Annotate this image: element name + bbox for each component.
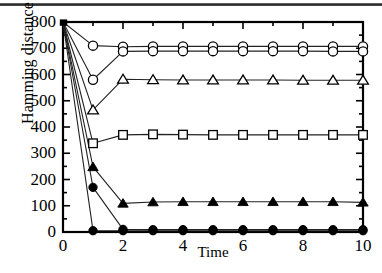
marker-square-open — [269, 131, 278, 140]
x-axis-label: Time — [197, 244, 228, 261]
marker-square-open — [329, 131, 338, 140]
x-tick-label: 6 — [239, 236, 248, 256]
marker-circle-open — [208, 47, 217, 56]
x-tick-label: 10 — [355, 236, 372, 256]
marker-circle-open — [118, 47, 127, 56]
marker-square-open — [179, 130, 188, 139]
x-tick-label: 0 — [59, 236, 68, 256]
y-tick-label: 200 — [0, 170, 56, 190]
marker-circle-open — [178, 47, 187, 56]
marker-triangle-open — [118, 74, 129, 83]
marker-circle-filled — [239, 226, 247, 234]
marker-circle-open — [328, 47, 337, 56]
marker-square-open — [149, 130, 158, 139]
plot-area — [0, 0, 382, 273]
y-tick-label: 800 — [0, 12, 56, 32]
marker-circle-open — [358, 47, 367, 56]
marker-circle-open — [268, 47, 277, 56]
x-tick-label: 4 — [179, 236, 188, 256]
marker-circle-filled — [89, 226, 97, 234]
marker-circle-filled — [179, 226, 187, 234]
marker-circle-open — [148, 47, 157, 56]
x-tick-label: 8 — [299, 236, 308, 256]
marker-circle-open — [238, 47, 247, 56]
marker-square-open — [89, 139, 98, 148]
y-tick-label: 600 — [0, 65, 56, 85]
y-tick-label: 300 — [0, 143, 56, 163]
marker-circle-filled — [209, 226, 217, 234]
marker-square-open — [239, 131, 248, 140]
marker-circle-filled — [149, 226, 157, 234]
marker-square-open — [359, 131, 368, 140]
y-tick-label: 400 — [0, 117, 56, 137]
marker-circle-open — [298, 47, 307, 56]
marker-circle-filled — [89, 183, 97, 191]
marker-circle-open — [88, 41, 97, 50]
marker-circle-filled — [359, 226, 367, 234]
scan-artifact-line — [0, 3, 382, 6]
x-tick-label: 2 — [119, 236, 128, 256]
y-tick-label: 0 — [0, 222, 56, 242]
marker-circle-open — [88, 75, 97, 84]
marker-square-open — [299, 131, 308, 140]
origin-marker-cluster — [60, 19, 67, 25]
marker-square-open — [119, 131, 128, 140]
marker-circle-filled — [329, 226, 337, 234]
figure-container: Hamming distance 01002003004005006007008… — [0, 0, 382, 273]
marker-circle-filled — [119, 226, 127, 234]
y-tick-label: 700 — [0, 38, 56, 58]
marker-square-open — [209, 131, 218, 140]
marker-circle-filled — [269, 226, 277, 234]
y-tick-label: 500 — [0, 91, 56, 111]
y-tick-label: 100 — [0, 196, 56, 216]
marker-circle-filled — [299, 226, 307, 234]
